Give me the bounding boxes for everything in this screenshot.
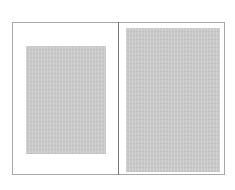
left-page-text-block [26, 46, 106, 154]
gutter-line [118, 22, 119, 175]
right-page-text-block [126, 28, 220, 172]
book-spread [12, 22, 225, 177]
right-page [118, 22, 225, 175]
left-page [12, 22, 119, 175]
